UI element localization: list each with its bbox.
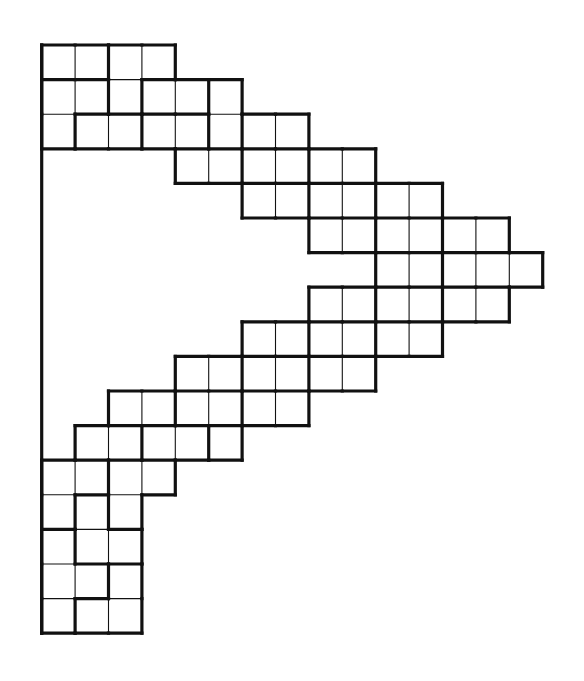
piece-boundary-lines (42, 45, 543, 633)
tiling-puzzle-figure (0, 0, 584, 681)
cell-grid-lines (42, 45, 510, 633)
polyomino-grid (0, 0, 584, 681)
